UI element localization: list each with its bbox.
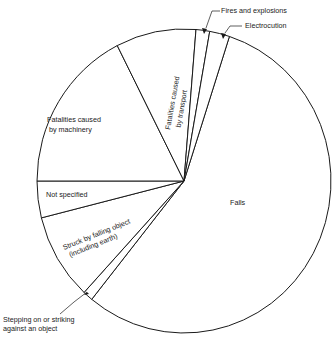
label-not-specified: Not specified bbox=[46, 190, 88, 199]
label-fires: Fires and explosions bbox=[221, 6, 287, 15]
label-stepping-1: Stepping on or striking bbox=[3, 315, 75, 324]
pie-slices bbox=[37, 29, 331, 333]
label-electrocution: Electrocution bbox=[245, 21, 287, 30]
leader-electrocution bbox=[225, 26, 242, 33]
label-falls: Falls bbox=[230, 198, 246, 207]
pie-chart: Falls Fatalities caused by machinery Fat… bbox=[0, 0, 335, 341]
label-machinery-2: by machinery bbox=[49, 125, 92, 134]
label-machinery-1: Fatalities caused bbox=[47, 115, 101, 124]
label-stepping-2: against an object bbox=[3, 324, 57, 333]
leader-stepping bbox=[60, 292, 87, 314]
leader-fires bbox=[206, 11, 220, 28]
